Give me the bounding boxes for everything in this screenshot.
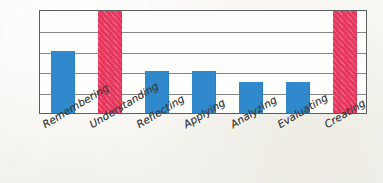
chart-page: RememberingUnderstandingReflectingApplyi… (0, 0, 383, 183)
bar-series (40, 11, 366, 113)
bar-reflecting (145, 71, 169, 113)
bar-analyzing (239, 82, 263, 113)
bar-applying (192, 71, 216, 113)
plot-area (39, 10, 367, 114)
bar-creating (333, 10, 357, 113)
bar-understanding (98, 10, 122, 113)
bar-remembering (51, 51, 75, 113)
bar-evaluating (286, 82, 310, 113)
